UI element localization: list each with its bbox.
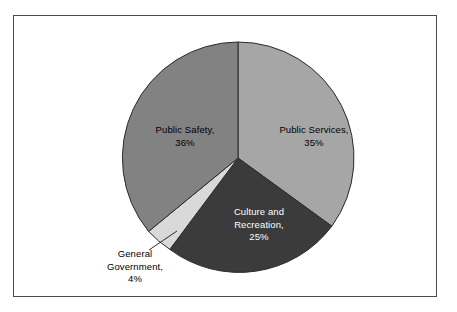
pie-label-culture-and-recreation-line2: Recreation,: [211, 219, 307, 232]
pie-chart-svg: [14, 16, 438, 298]
pie-label-culture-and-recreation: Culture and Recreation, 25%: [211, 206, 307, 244]
pie-label-public-services-value: 35%: [269, 137, 359, 150]
pie-label-culture-and-recreation-value: 25%: [211, 231, 307, 244]
pie-label-public-services-line1: Public Services,: [269, 124, 359, 137]
pie-label-general-government-line1: General: [87, 248, 183, 261]
pie-chart: Public Services, 35% Public Safety, 36% …: [14, 16, 436, 296]
pie-label-public-safety-line1: Public Safety,: [140, 124, 230, 137]
pie-label-general-government-line2: Government,: [87, 261, 183, 274]
pie-label-culture-and-recreation-line1: Culture and: [211, 206, 307, 219]
pie-label-public-safety-value: 36%: [140, 137, 230, 150]
pie-label-public-services: Public Services, 35%: [269, 124, 359, 149]
pie-label-public-safety: Public Safety, 36%: [140, 124, 230, 149]
pie-label-general-government-value: 4%: [87, 273, 183, 286]
chart-frame: Public Services, 35% Public Safety, 36% …: [13, 15, 437, 297]
pie-label-general-government: General Government, 4%: [87, 248, 183, 286]
